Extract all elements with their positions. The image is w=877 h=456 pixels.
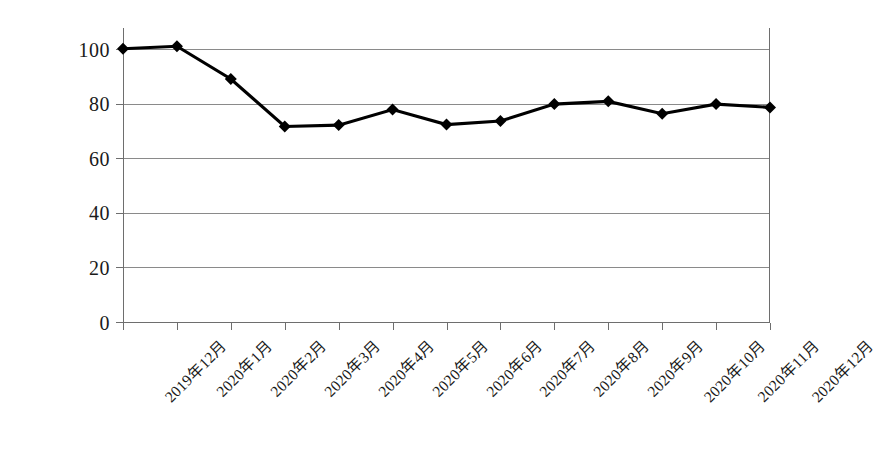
- data-point-marker: [602, 95, 614, 107]
- y-axis-ticks: [116, 50, 123, 323]
- y-axis-tick-label: 60: [55, 147, 110, 170]
- gridlines: [123, 50, 770, 268]
- data-point-marker: [548, 98, 560, 110]
- data-point-marker: [387, 104, 399, 116]
- data-point-marker: [117, 43, 129, 55]
- data-point-marker: [333, 119, 345, 131]
- data-point-markers: [117, 40, 776, 132]
- y-axis-tick-label: 0: [55, 311, 110, 334]
- data-point-marker: [710, 98, 722, 110]
- data-point-marker: [764, 101, 776, 113]
- data-series-line: [123, 46, 770, 126]
- x-axis-ticks: [124, 323, 771, 330]
- y-axis-tick-label: 20: [55, 256, 110, 279]
- data-point-marker: [494, 115, 506, 127]
- y-axis-tick-label: 40: [55, 202, 110, 225]
- y-axis-tick-label: 100: [55, 38, 110, 61]
- data-point-marker: [656, 108, 668, 120]
- y-axis-tick-label: 80: [55, 93, 110, 116]
- data-point-marker: [441, 119, 453, 131]
